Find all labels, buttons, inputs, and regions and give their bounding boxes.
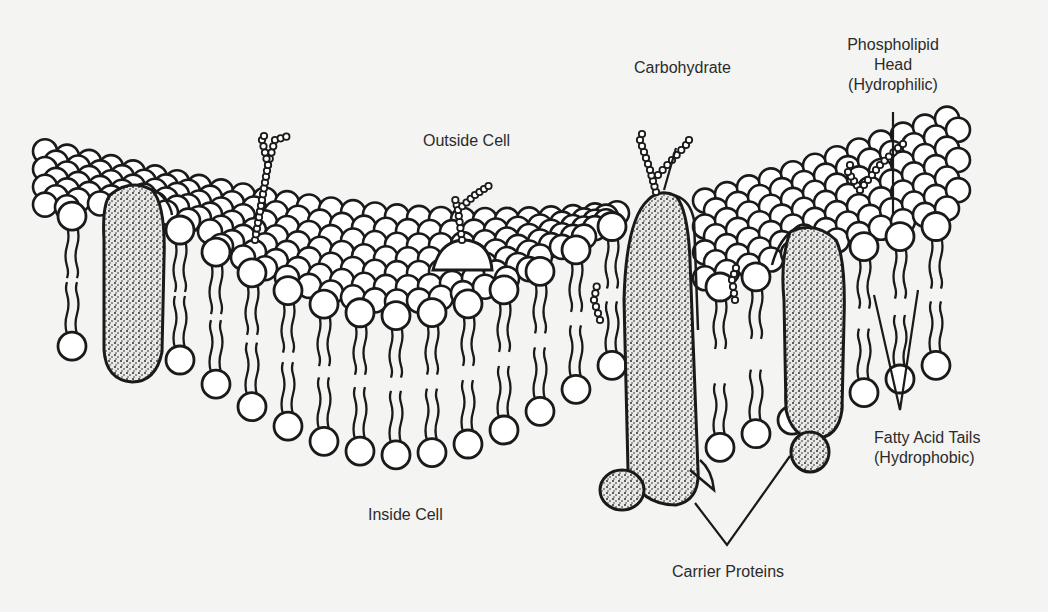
label-phospholipid-head-line1: Phospholipid: [826, 35, 960, 55]
carrier-protein-2: [783, 228, 844, 439]
carrier-protein-1-lobe: [600, 470, 644, 510]
label-carrier-proteins: Carrier Proteins: [672, 562, 784, 582]
label-phospholipid-head: Phospholipid Head (Hydrophilic): [826, 35, 960, 95]
carrier-protein-2-lobe: [791, 432, 829, 472]
label-outside-cell: Outside Cell: [423, 131, 510, 151]
label-fatty-acid-tails: Fatty Acid Tails (Hydrophobic): [874, 428, 980, 468]
integral-protein-left: [104, 185, 165, 382]
label-carbohydrate: Carbohydrate: [634, 58, 731, 78]
label-phospholipid-head-line2: Head: [826, 55, 960, 75]
label-phospholipid-head-line3: (Hydrophilic): [826, 75, 960, 95]
carrier-protein-1: [624, 193, 698, 505]
label-inside-cell: Inside Cell: [368, 505, 443, 525]
label-fatty-acid-tails-line1: Fatty Acid Tails: [874, 428, 980, 448]
label-fatty-acid-tails-line2: (Hydrophobic): [874, 448, 980, 468]
fatty-acid-tails-pointer: [874, 290, 918, 410]
